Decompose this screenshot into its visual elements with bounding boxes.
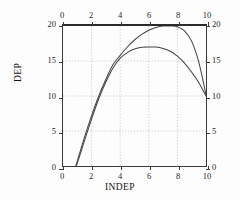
curve-upper-curve [76, 26, 206, 166]
tick-mark [206, 98, 210, 99]
tick-mark [59, 26, 63, 27]
plot-area [62, 24, 207, 167]
x-tick-label-top: 10 [203, 11, 212, 20]
x-tick-label-bottom: 8 [176, 172, 180, 181]
y-tick-label-right: 0 [212, 163, 216, 172]
y-tick-label-right: 15 [212, 56, 221, 65]
tick-mark [59, 98, 63, 99]
x-tick-label-top: 6 [147, 11, 151, 20]
tick-mark [63, 166, 64, 170]
y-tick-label-left: 5 [52, 127, 56, 136]
tick-mark [59, 169, 63, 170]
tick-mark [150, 22, 151, 26]
y-tick-label-right: 10 [212, 91, 221, 100]
chart-screenshot: DEP 024681002468100510152005101520 INDEP [0, 0, 240, 200]
x-tick-label-bottom: 2 [89, 172, 93, 181]
x-tick-label-bottom: 4 [118, 172, 122, 181]
tick-mark [206, 26, 210, 27]
tick-mark [59, 62, 63, 63]
x-tick-label-top: 2 [89, 11, 93, 20]
tick-mark [150, 166, 151, 170]
curve-lower-curve [76, 47, 206, 166]
tick-mark [92, 166, 93, 170]
x-tick-label-bottom: 10 [203, 172, 212, 181]
tick-mark [121, 166, 122, 170]
tick-mark [206, 133, 210, 134]
tick-mark [179, 166, 180, 170]
tick-mark [121, 22, 122, 26]
tick-mark [92, 22, 93, 26]
y-tick-label-left: 20 [48, 20, 57, 29]
y-tick-label-right: 5 [212, 127, 216, 136]
tick-mark [59, 133, 63, 134]
x-tick-label-bottom: 0 [60, 172, 64, 181]
tick-mark [206, 62, 210, 63]
tick-mark [206, 169, 210, 170]
x-axis-title: INDEP [0, 182, 240, 192]
y-tick-label-left: 10 [48, 91, 57, 100]
data-curves [63, 26, 206, 166]
x-tick-label-top: 4 [118, 11, 122, 20]
y-tick-label-left: 15 [48, 56, 57, 65]
y-tick-label-left: 0 [52, 163, 56, 172]
x-tick-label-top: 0 [60, 11, 64, 20]
y-tick-label-right: 20 [212, 20, 221, 29]
tick-mark [63, 22, 64, 26]
y-axis-title: DEP [13, 63, 23, 82]
x-tick-label-bottom: 6 [147, 172, 151, 181]
x-tick-label-top: 8 [176, 11, 180, 20]
tick-mark [179, 22, 180, 26]
